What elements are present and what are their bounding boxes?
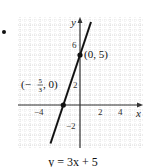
x-axis-label: x	[135, 107, 141, 119]
label-suffix: , 0)	[43, 78, 58, 91]
fraction-denominator: 3	[39, 86, 43, 94]
x-tick-label: 2	[98, 107, 103, 117]
point-0-5-label: (0, 5)	[84, 48, 108, 61]
graph-figure: x y −4 2 4 6 2 −2 (0, 5) (− 5 3 , 0)	[0, 0, 146, 167]
point-0-5	[77, 52, 82, 57]
label-prefix: (−	[21, 78, 31, 91]
graph-caption: y = 3x + 5	[0, 156, 146, 167]
point-neg5over3-0	[61, 102, 66, 107]
y-tick-label: −2	[66, 121, 76, 131]
point-neg5over3-0-label: (− 5 3 , 0)	[21, 77, 58, 94]
fraction-numerator: 5	[39, 77, 43, 85]
y-tick-label: 6	[72, 40, 77, 50]
x-tick-label: −4	[34, 107, 44, 117]
y-axis-label: y	[70, 16, 76, 28]
x-tick-label: 4	[118, 107, 123, 117]
y-tick-label: 2	[73, 80, 78, 90]
